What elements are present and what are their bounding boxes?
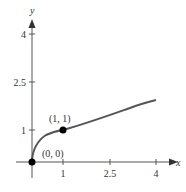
x-tick-label: 1 [61, 168, 66, 179]
chart: x y 1 2.5 4 1 2.5 4 (0, 0) (1, 1) [0, 0, 186, 192]
x-tick-label: 4 [154, 168, 159, 179]
y-tick-label: 2.5 [14, 77, 27, 88]
point-origin [29, 159, 36, 166]
y-axis-label: y [29, 5, 35, 16]
point-label-origin: (0, 0) [42, 148, 64, 160]
y-axis-arrow-icon [29, 19, 36, 28]
x-tick-label: 2.5 [104, 168, 117, 179]
point-label-1-1: (1, 1) [49, 113, 71, 125]
x-axis-label: x [175, 157, 181, 168]
y-tick-label: 4 [21, 29, 26, 40]
point-1-1 [60, 127, 67, 134]
y-tick-label: 1 [21, 125, 26, 136]
